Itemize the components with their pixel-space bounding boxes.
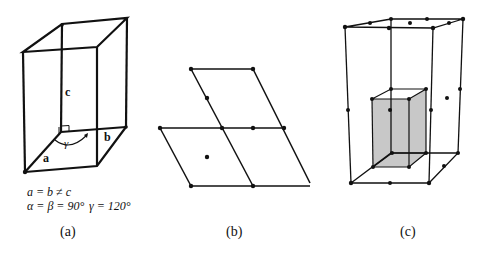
axis-label-c: c xyxy=(65,85,71,99)
axis-label-b: b xyxy=(104,130,111,144)
diagonal-edge-2 xyxy=(253,69,310,183)
caption-c: (c) xyxy=(400,224,416,240)
b-arrow-tip xyxy=(124,125,128,129)
figure-b-2d-lattice: (b) xyxy=(158,67,310,240)
c-arrow-tip xyxy=(60,23,64,27)
inner-unit-cell-fill xyxy=(372,89,426,167)
back-right-edge xyxy=(126,18,127,127)
lattice-relation-angle-gamma: γ = 120° xyxy=(89,199,131,213)
diagonal-edge-3 xyxy=(160,128,191,186)
top-face xyxy=(23,18,127,52)
axis-b-edge xyxy=(61,127,126,132)
angle-label-gamma: γ xyxy=(64,137,69,149)
figure-c-supercell: (c) xyxy=(343,17,465,240)
caption-b: (b) xyxy=(226,224,243,240)
lattice-relation-lengths: a = b ≠ c xyxy=(27,185,72,199)
figure-a-unit-cell: c b a γ a = b ≠ c α = β = 90° γ = 120° (… xyxy=(23,18,131,240)
crystal-lattice-diagram: c b a γ a = b ≠ c α = β = 90° γ = 120° (… xyxy=(0,0,486,255)
corner-dot xyxy=(23,170,27,174)
caption-a: (a) xyxy=(60,224,76,240)
gamma-arc xyxy=(55,135,87,145)
front-left-edge xyxy=(23,52,25,172)
axis-label-a: a xyxy=(43,151,49,165)
axis-c-edge xyxy=(61,24,62,132)
lattice-relation-angles-ab: α = β = 90° xyxy=(27,199,84,213)
bottom-front-edges xyxy=(25,127,126,172)
